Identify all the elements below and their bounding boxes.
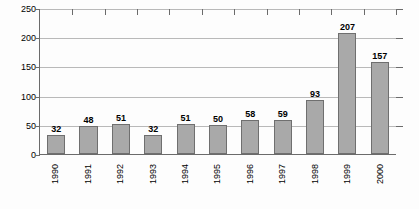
x-label-slot: 1994 xyxy=(169,156,201,206)
bar-value-label: 48 xyxy=(84,116,94,125)
x-axis-tick-label: 1990 xyxy=(51,164,60,184)
bar: 207 xyxy=(338,33,356,154)
bar-value-label: 207 xyxy=(340,23,355,32)
x-axis-tick xyxy=(396,9,397,15)
y-axis-tick-label: 200 xyxy=(2,34,36,43)
y-axis-tick-right xyxy=(396,97,403,98)
x-label-slot: 1999 xyxy=(331,156,363,206)
x-axis-tick-label: 1992 xyxy=(116,164,125,184)
bar-slot: 51 xyxy=(169,9,201,154)
y-axis-tick-right xyxy=(396,38,403,39)
x-axis-tick-label: 1991 xyxy=(83,164,92,184)
y-axis-tick-label: 50 xyxy=(2,122,36,131)
bar: 32 xyxy=(47,135,65,154)
bar: 48 xyxy=(79,126,97,154)
bar-value-label: 51 xyxy=(116,114,126,123)
x-axis-tick xyxy=(105,9,106,15)
bar: 59 xyxy=(274,120,292,154)
bar-slot: 48 xyxy=(72,9,104,154)
y-axis-tick-right xyxy=(396,126,403,127)
x-label-slot: 1992 xyxy=(104,156,136,206)
bar: 51 xyxy=(112,124,130,154)
x-axis-tick-label: 1999 xyxy=(343,164,352,184)
bar-value-label: 51 xyxy=(181,114,191,123)
x-label-slot: 1990 xyxy=(39,156,71,206)
bar-chart: 050100150200250 324851325150585993207157… xyxy=(0,0,419,209)
x-axis-tick xyxy=(234,9,235,15)
y-axis-tick-label: 100 xyxy=(2,93,36,102)
bar-slot: 32 xyxy=(137,9,169,154)
bar-value-label: 32 xyxy=(148,125,158,134)
y-axis-tick-label: 0 xyxy=(2,151,36,160)
bar-slot: 58 xyxy=(234,9,266,154)
x-axis-tick-label: 1994 xyxy=(181,164,190,184)
bar-slot: 157 xyxy=(364,9,396,154)
bar: 50 xyxy=(209,125,227,154)
x-axis-tick xyxy=(72,9,73,15)
x-label-slot: 1991 xyxy=(71,156,103,206)
x-axis-tick-label: 1993 xyxy=(148,164,157,184)
bar: 32 xyxy=(144,135,162,154)
bar-slot: 51 xyxy=(105,9,137,154)
bar-slot: 59 xyxy=(267,9,299,154)
bar-slot: 93 xyxy=(299,9,331,154)
x-label-slot: 1998 xyxy=(299,156,331,206)
x-label-slot: 1996 xyxy=(234,156,266,206)
bar-value-label: 58 xyxy=(245,110,255,119)
x-axis-tick-label: 1997 xyxy=(278,164,287,184)
bar-value-label: 32 xyxy=(51,125,61,134)
y-axis-tick-right xyxy=(396,9,403,10)
x-axis-tick xyxy=(331,9,332,15)
bar-value-label: 59 xyxy=(278,110,288,119)
x-label-slot: 2000 xyxy=(364,156,396,206)
bar-slot: 32 xyxy=(40,9,72,154)
x-axis-tick xyxy=(267,9,268,15)
bar: 93 xyxy=(306,100,324,154)
bar-slot: 50 xyxy=(202,9,234,154)
x-label-slot: 1993 xyxy=(136,156,168,206)
y-axis-tick-label: 250 xyxy=(2,5,36,14)
y-axis-tick-right xyxy=(396,67,403,68)
plot-area: 324851325150585993207157 xyxy=(39,9,396,155)
x-label-slot: 1997 xyxy=(266,156,298,206)
x-label-slot: 1995 xyxy=(201,156,233,206)
x-axis-tick xyxy=(202,9,203,15)
bar-slot: 207 xyxy=(331,9,363,154)
x-axis-tick xyxy=(299,9,300,15)
x-axis-tick-label: 1995 xyxy=(213,164,222,184)
bar-series: 324851325150585993207157 xyxy=(40,9,396,154)
x-axis-tick-label: 1998 xyxy=(310,164,319,184)
bar: 157 xyxy=(371,62,389,154)
bar-value-label: 93 xyxy=(310,90,320,99)
x-axis-tick-label: 1996 xyxy=(245,164,254,184)
x-axis-tick xyxy=(169,9,170,15)
x-axis-tick xyxy=(137,9,138,15)
x-axis-tick-label: 2000 xyxy=(375,164,384,184)
bar: 58 xyxy=(241,120,259,154)
x-axis-labels: 1990199119921993199419951996199719981999… xyxy=(39,156,396,206)
x-axis-tick xyxy=(364,9,365,15)
y-axis-tick-label: 150 xyxy=(2,63,36,72)
bar-value-label: 157 xyxy=(372,52,387,61)
bar-value-label: 50 xyxy=(213,115,223,124)
bar: 51 xyxy=(177,124,195,154)
